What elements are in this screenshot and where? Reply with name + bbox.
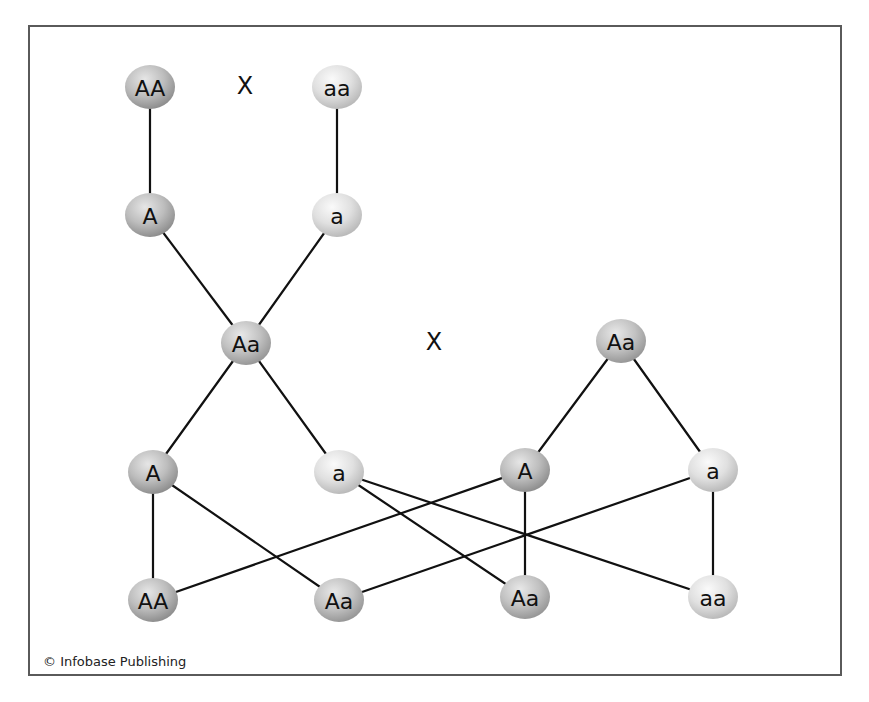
- cross-middle-symbol: X: [426, 328, 442, 356]
- allele-node-g2: a: [312, 193, 362, 237]
- node-label: Aa: [607, 330, 636, 355]
- edge-g1-to-f1a: [150, 215, 246, 343]
- allele-node-f1b: Aa: [596, 319, 646, 363]
- copyright-notice: © Infobase Publishing: [43, 654, 186, 669]
- allele-node-p1: AA: [125, 65, 175, 109]
- edge-f1b-to-f1b_g1: [525, 341, 621, 470]
- allele-node-f2_3: Aa: [500, 575, 550, 619]
- node-label: a: [330, 204, 343, 229]
- node-label: A: [142, 204, 157, 229]
- allele-node-f1b_g2: a: [688, 448, 738, 492]
- node-label: aa: [700, 586, 727, 611]
- allele-node-f1b_g1: A: [500, 448, 550, 492]
- edge-f1a-to-f1a_g2: [246, 343, 339, 472]
- node-label: aa: [324, 76, 351, 101]
- allele-node-f1a_g2: a: [314, 450, 364, 494]
- edge-f1a_g2-to-f2_3: [339, 472, 525, 597]
- cross-top-symbol: X: [237, 72, 253, 100]
- allele-node-f2_1: AA: [128, 578, 178, 622]
- allele-node-f2_2: Aa: [314, 578, 364, 622]
- node-label: Aa: [232, 332, 261, 357]
- edge-f1a_g1-to-f2_2: [153, 472, 339, 600]
- node-label: Aa: [325, 589, 354, 614]
- allele-node-f1a: Aa: [221, 321, 271, 365]
- edge-f1b-to-f1b_g2: [621, 341, 713, 470]
- allele-node-p2: aa: [312, 65, 362, 109]
- inheritance-diagram: AAaaAaAaAaAaAaAAAaAaaa XX: [0, 0, 869, 702]
- node-label: a: [332, 461, 345, 486]
- node-label: AA: [138, 589, 169, 614]
- node-label: A: [517, 459, 532, 484]
- edge-f1a-to-f1a_g1: [153, 343, 246, 472]
- node-label: A: [145, 461, 160, 486]
- node-label: AA: [135, 76, 166, 101]
- node-label: Aa: [511, 586, 540, 611]
- allele-node-f1a_g1: A: [128, 450, 178, 494]
- edge-g2-to-f1a: [246, 215, 337, 343]
- node-label: a: [706, 459, 719, 484]
- allele-node-f2_4: aa: [688, 575, 738, 619]
- allele-node-g1: A: [125, 193, 175, 237]
